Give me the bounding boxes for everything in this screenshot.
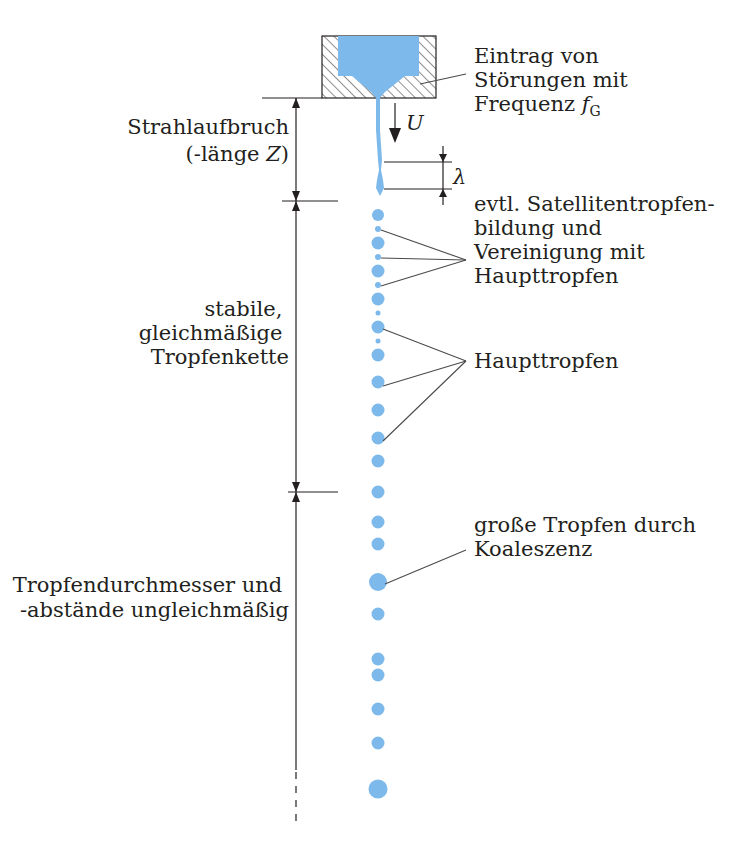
arrow-down-icon [439,154,447,162]
wavelength-dimension: λ [384,146,466,205]
arrow-down-icon [389,128,401,143]
arrow-up-icon [292,98,300,108]
wavelength-label: λ [452,165,466,189]
coalescence-leader [385,550,466,584]
droplet [372,608,385,621]
droplet [372,669,385,682]
droplet-chain [369,209,388,799]
arrow-down-icon [292,191,300,201]
droplet [372,486,385,499]
satellite-label: evtl. Satellitentropfen- bildung und Ver… [473,192,721,288]
breakup-label: Strahlaufbruch [127,115,289,139]
droplet [369,780,388,799]
breakup-length-label: (-länge Z) [186,142,289,166]
jet-breakup-diagram: U λ Eintrag von Störungen mit Frequenz f… [0,0,735,852]
arrow-down-icon [292,482,300,492]
section-dimension-line [262,98,338,828]
liquid-jet [376,98,384,196]
droplet [372,737,385,750]
nozzle [322,36,436,98]
droplet [372,349,385,362]
droplet [376,339,381,344]
main-drops-leaders [383,329,466,441]
droplet [372,432,385,445]
droplet [376,311,381,316]
droplet [375,226,381,232]
droplet [372,404,385,417]
droplet [372,653,385,666]
droplet [372,237,385,250]
droplet [372,265,385,278]
droplet [372,321,385,334]
droplet [375,254,381,260]
arrow-up-icon [439,189,447,197]
disturbance-label: Eintrag von Störungen mit Frequenz fG [474,44,634,119]
stable-chain-label: stabile, gleichmäßige Tropfenkette [139,297,289,369]
velocity-arrow: U [389,103,425,143]
main-drops-label: Haupttropfen [474,349,619,373]
droplet [372,293,385,306]
droplet [372,455,385,468]
satellite-leaders [381,230,466,286]
arrow-up-icon [292,492,300,502]
droplet [372,209,384,221]
coalescence-label: große Tropfen durch Koaleszenz [474,513,703,561]
droplet [369,573,387,591]
droplet [375,282,381,288]
arrow-up-icon [292,201,300,211]
irregular-drops-label: Tropfendurchmesser und -abstände ungleic… [13,573,289,622]
velocity-label: U [406,111,425,135]
droplet [372,538,385,551]
droplet [372,376,385,389]
droplet [372,516,385,529]
droplet [372,703,385,716]
